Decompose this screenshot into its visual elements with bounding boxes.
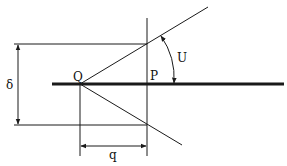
label-q: Q	[73, 70, 83, 84]
lower-ray	[80, 84, 182, 145]
label-p: P	[150, 69, 158, 83]
upper-ray	[80, 7, 208, 84]
angle-arc-u	[161, 36, 174, 83]
label-delta: δ	[6, 78, 13, 92]
label-q-dim: q	[109, 148, 117, 162]
label-u: U	[177, 51, 187, 65]
geometry-diagram: Q P U δ q	[0, 0, 287, 166]
